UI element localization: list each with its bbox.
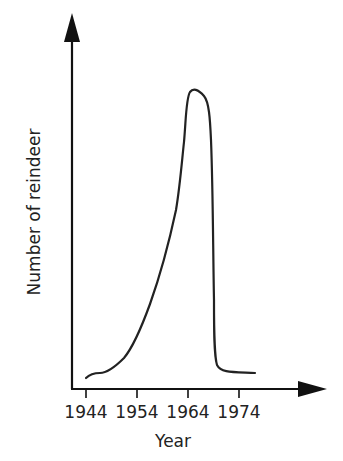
y-axis-title: Number of reindeer xyxy=(24,129,44,296)
chart: 1944 1954 1964 1974 Year Number of reind… xyxy=(0,0,343,461)
x-tick-label: 1944 xyxy=(64,402,107,422)
x-axis-arrow-icon xyxy=(298,381,327,397)
x-ticks xyxy=(86,389,239,398)
x-tick-label: 1964 xyxy=(166,402,209,422)
x-axis-title: Year xyxy=(154,431,191,451)
x-tick-label: 1974 xyxy=(217,402,260,422)
population-curve xyxy=(86,90,255,378)
y-axis-arrow-icon xyxy=(64,13,80,42)
x-tick-label: 1954 xyxy=(115,402,158,422)
